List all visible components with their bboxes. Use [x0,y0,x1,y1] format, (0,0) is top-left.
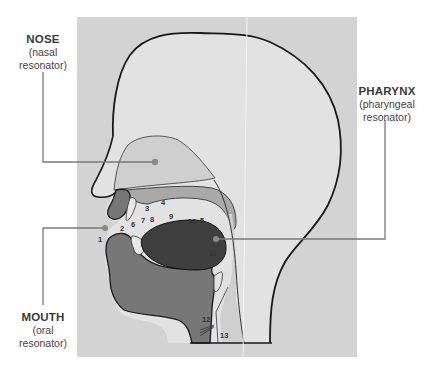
number-5: 5 [200,216,204,225]
number-12: 12 [202,315,210,324]
pharynx-label: PHARYNX (pharyngeal resonator) [352,85,422,124]
number-1: 1 [98,235,102,244]
number-10: 10 [188,217,196,226]
number-8: 8 [150,215,154,224]
nose-label-line1: (nasal [12,46,74,59]
pharynx-label-line2: resonator) [352,111,422,124]
mouth-label-line1: (oral [12,324,74,337]
number-6: 6 [131,220,135,229]
nose-label-line2: resonator) [12,59,74,72]
mouth-dot [102,225,108,231]
number-9: 9 [169,212,173,221]
number-7: 7 [141,216,145,225]
pharynx-label-line1: (pharyngeal [352,98,422,111]
pharynx-dot [213,236,219,242]
number-2: 2 [120,224,124,233]
number-13: 13 [220,331,228,340]
nose-label: NOSE (nasal resonator) [12,33,74,72]
mouth-label-title: MOUTH [12,311,74,324]
nose-dot [152,159,158,165]
nose-label-title: NOSE [12,33,74,46]
mouth-label: MOUTH (oral resonator) [12,311,74,350]
number-11: 11 [209,249,217,258]
number-3: 3 [145,204,149,213]
mouth-label-line2: resonator) [12,337,74,350]
pharynx-label-title: PHARYNX [352,85,422,98]
